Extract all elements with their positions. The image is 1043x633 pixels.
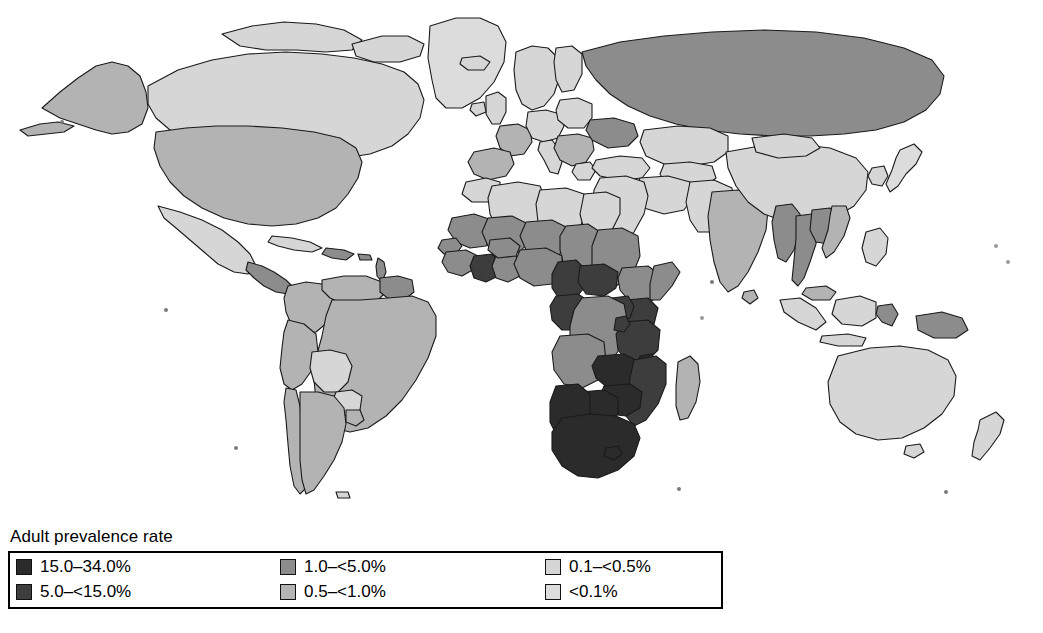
region-south-africa [552, 414, 640, 478]
region-central-african-republic [578, 264, 618, 296]
legend-item-4[interactable]: 0.1–<0.5% [545, 558, 651, 576]
legend-label-2: 1.0–<5.0% [304, 558, 386, 576]
region-greece [572, 162, 596, 180]
region-scandinavia [514, 46, 560, 110]
legend-label-1: 5.0–<15.0% [40, 583, 131, 601]
region-java [820, 334, 866, 346]
legend-label-4: 0.1–<0.5% [569, 558, 651, 576]
legend-swatch-5 [545, 584, 561, 600]
world-map [0, 0, 1043, 520]
region-puerto-rico [358, 254, 372, 260]
region-falklands [336, 492, 350, 498]
region-borneo [832, 296, 876, 326]
island-dot [677, 487, 681, 491]
region-hispaniola [322, 248, 354, 260]
region-baffin [352, 36, 424, 62]
region-australia [828, 346, 956, 440]
region-sri-lanka [742, 290, 758, 304]
region-ukraine [586, 118, 638, 148]
region-cuba [268, 236, 322, 252]
region-russian-federation [582, 30, 944, 136]
legend-label-0: 15.0–34.0% [40, 558, 131, 576]
legend-box: 15.0–34.0% 5.0–<15.0% 1.0–<5.0% 0.5–<1.0… [8, 551, 723, 609]
region-spain-portugal [468, 148, 514, 180]
island-dot [700, 316, 704, 320]
legend-title: Adult prevalence rate [10, 527, 728, 547]
legend-item-0[interactable]: 15.0–34.0% [16, 558, 131, 576]
legend-item-1[interactable]: 5.0–<15.0% [16, 583, 131, 601]
island-dot [164, 308, 168, 312]
region-united-states [154, 126, 362, 226]
legend-swatch-2 [280, 559, 296, 575]
island-dot [1006, 260, 1010, 264]
legend-label-5: <0.1% [569, 583, 618, 601]
region-korea [868, 166, 888, 186]
legend-label-3: 0.5–<1.0% [304, 583, 386, 601]
region-new-zealand [972, 412, 1004, 460]
legend-swatch-4 [545, 559, 561, 575]
region-aleutians [20, 122, 74, 136]
region-sumatra [780, 298, 826, 330]
legend-item-5[interactable]: <0.1% [545, 583, 618, 601]
region-united-kingdom [486, 92, 506, 124]
region-argentina [300, 392, 346, 494]
island-dot [710, 280, 714, 284]
region-papua-new-guinea [916, 312, 968, 338]
region-japan [886, 144, 922, 192]
region-ireland [470, 102, 486, 116]
island-dot [944, 490, 948, 494]
region-madagascar [676, 356, 700, 420]
legend-item-2[interactable]: 1.0–<5.0% [280, 558, 386, 576]
region-philippines [862, 228, 888, 266]
island-dot [60, 120, 64, 124]
region-finland [554, 46, 582, 92]
legend-swatch-1 [16, 584, 32, 600]
region-tasmania [904, 444, 924, 458]
legend-swatch-0 [16, 559, 32, 575]
legend-swatch-3 [280, 584, 296, 600]
region-somalia [650, 262, 680, 300]
island-dot [234, 446, 238, 450]
region-canada-arctic-islands [222, 22, 362, 52]
region-kazakhstan [640, 126, 728, 166]
legend-item-3[interactable]: 0.5–<1.0% [280, 583, 386, 601]
region-sulawesi [876, 304, 898, 326]
region-malaysia [802, 286, 836, 300]
legend: Adult prevalence rate 15.0–34.0% 5.0–<15… [8, 527, 728, 609]
island-dot [994, 244, 998, 248]
world-map-svg [0, 0, 1043, 520]
